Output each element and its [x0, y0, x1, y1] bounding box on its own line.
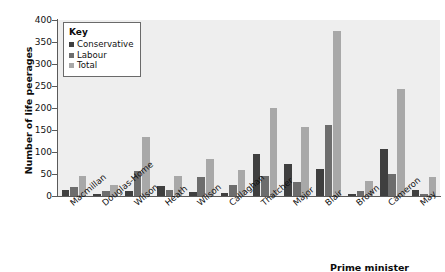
bar-conservative	[62, 190, 70, 196]
bar-group	[284, 20, 309, 196]
y-tick-mark	[52, 196, 57, 197]
bar-group	[253, 20, 278, 196]
legend: Key ConservativeLabourTotal	[63, 22, 141, 77]
bar-total	[333, 31, 341, 196]
y-tick-label: 350	[14, 37, 52, 47]
legend-title: Key	[69, 27, 135, 37]
bar-group	[412, 20, 437, 196]
bar-group	[221, 20, 246, 196]
y-tick-mark	[52, 42, 57, 43]
y-tick-label: 50	[14, 169, 52, 179]
bar-labour	[325, 125, 333, 196]
y-tick-label: 300	[14, 59, 52, 69]
y-tick-mark	[52, 174, 57, 175]
y-tick-mark	[52, 108, 57, 109]
legend-item: Labour	[69, 50, 135, 61]
bar-conservative	[348, 194, 356, 196]
bar-conservative	[189, 192, 197, 196]
bar-conservative	[412, 190, 420, 196]
bar-group	[157, 20, 182, 196]
legend-items: ConservativeLabourTotal	[69, 39, 135, 71]
y-tick-mark	[52, 130, 57, 131]
y-tick-mark	[52, 20, 57, 21]
y-tick-label: 400	[14, 15, 52, 25]
bar-conservative	[93, 194, 101, 196]
bar-conservative	[380, 149, 388, 196]
bar-group	[316, 20, 341, 196]
bar-total	[270, 108, 278, 196]
bar-total	[397, 89, 405, 196]
bar-group	[189, 20, 214, 196]
legend-label: Conservative	[77, 39, 134, 50]
x-axis-title: Prime minister	[330, 262, 409, 272]
bar-conservative	[221, 193, 229, 196]
bar-chart: Number of life peerages 0501001502002503…	[0, 0, 445, 272]
bar-conservative	[125, 191, 133, 196]
legend-label: Total	[77, 60, 97, 71]
bar-group	[380, 20, 405, 196]
y-tick-mark	[52, 152, 57, 153]
y-tick-label: 150	[14, 125, 52, 135]
bar-group	[348, 20, 373, 196]
legend-swatch-icon	[69, 53, 74, 58]
legend-item: Conservative	[69, 39, 135, 50]
y-tick-mark	[52, 86, 57, 87]
legend-item: Total	[69, 60, 135, 71]
y-tick-mark	[52, 64, 57, 65]
y-tick-label: 200	[14, 103, 52, 113]
legend-swatch-icon	[69, 42, 74, 47]
legend-swatch-icon	[69, 63, 74, 68]
bar-conservative	[316, 169, 324, 196]
y-tick-label: 100	[14, 147, 52, 157]
y-tick-label: 250	[14, 81, 52, 91]
y-tick-label: 0	[14, 191, 52, 201]
legend-label: Labour	[77, 50, 107, 61]
